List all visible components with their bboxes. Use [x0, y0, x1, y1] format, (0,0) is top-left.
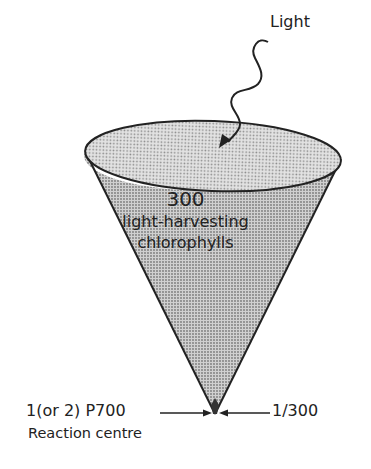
ratio-label: 1/300	[272, 401, 318, 420]
antenna-description-line1: light-harvesting	[0, 212, 371, 231]
chlorophyll-count: 300	[0, 187, 371, 211]
ratio-arrow-head-icon	[219, 410, 228, 417]
p700-label: 1(or 2) P700	[26, 401, 126, 420]
antenna-description-line2: chlorophylls	[0, 233, 371, 252]
reaction-centre-caption: Reaction centre	[28, 425, 142, 441]
p700-arrow-head-icon	[203, 410, 212, 417]
light-label: Light	[270, 12, 310, 31]
